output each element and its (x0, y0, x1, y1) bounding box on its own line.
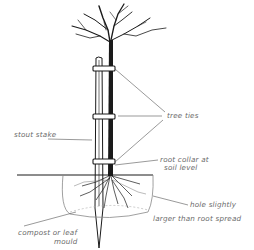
diagram-drawing (0, 0, 254, 250)
tree-planting-diagram: tree ties stout stake root collar at soi… (0, 0, 254, 250)
stout-stake (95, 57, 103, 248)
label-tree-ties: tree ties (167, 112, 199, 120)
planting-hole (62, 175, 153, 218)
label-stout-stake: stout stake (14, 131, 56, 139)
label-root-collar-line2: soil level (164, 164, 198, 172)
label-hole-line2: larger than root spread (153, 215, 241, 223)
label-compost-line1: compost or leaf (18, 229, 77, 237)
roots (74, 176, 146, 208)
label-compost-line2: mould (54, 238, 78, 246)
leader-lines (24, 69, 188, 226)
label-hole-line1: hole slightly (190, 201, 236, 209)
compost-layer (70, 205, 148, 212)
tree-branches (72, 4, 166, 42)
tree-trunk (108, 40, 113, 176)
